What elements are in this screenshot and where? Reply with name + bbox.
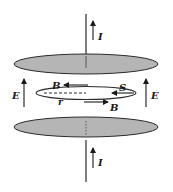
surface-label: S [119, 82, 126, 93]
current-label-top: I [97, 31, 103, 42]
field-label-left: E [11, 90, 20, 101]
current-label-bottom: I [97, 157, 103, 168]
magnetic-label-bottom: B [109, 102, 118, 113]
capacitor-diagram: I E E r B S B I [0, 0, 173, 192]
field-label-right: E [150, 90, 159, 101]
magnetic-label-top: B [51, 80, 60, 91]
